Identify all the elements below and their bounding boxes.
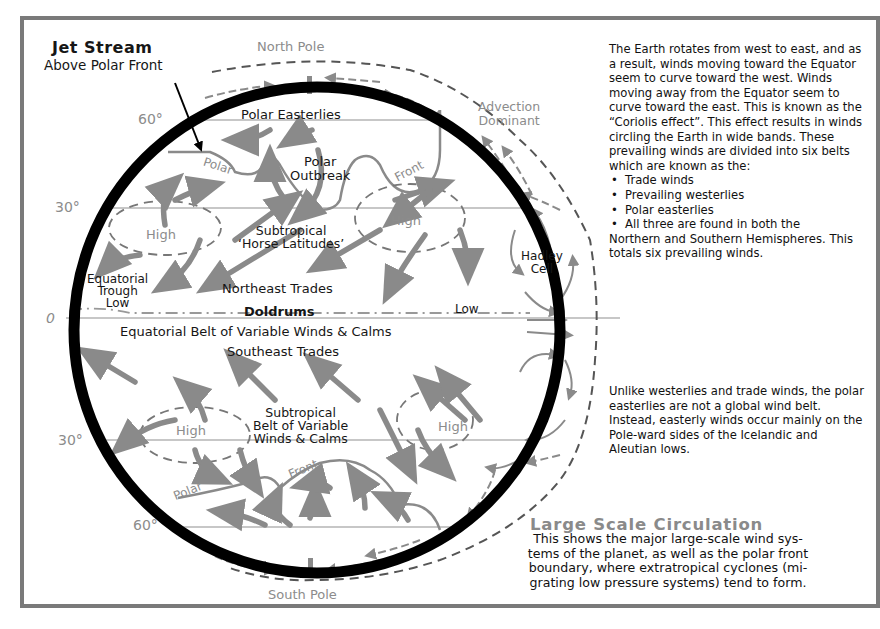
south-pole-label: South Pole — [268, 588, 337, 602]
high-nw-label: High — [146, 228, 176, 242]
equatorial-trough-label: Equatorial Trough Low — [87, 273, 148, 309]
high-ne-label: High — [391, 214, 421, 228]
coriolis-explanation: The Earth rotates from west to east, and… — [609, 42, 867, 261]
hadley-cell-label: Hadley Cell — [521, 250, 563, 275]
advection-dominant-label: Advection Dominant — [478, 100, 540, 128]
polar-outbreak-label: Polar Outbreak — [290, 155, 350, 182]
latitude-label-n30: 30° — [55, 200, 80, 215]
latitude-label-s60: 60° — [133, 518, 158, 533]
latitude-label-n60: 60° — [138, 112, 163, 127]
diagram-caption: This shows the major large-scale wind sy… — [497, 532, 839, 591]
southeast-trades-label: Southeast Trades — [227, 345, 339, 359]
polar-easterlies-note: Unlike westerlies and trade winds, the p… — [609, 384, 867, 457]
list-item: Trade winds — [609, 173, 867, 188]
list-item: Polar easterlies — [609, 203, 867, 218]
subtropical-horse-latitudes-label: Subtropical ‘Horse Latitudes’ — [238, 224, 344, 250]
list-item: All three are found in both the — [609, 217, 867, 232]
high-se-label: High — [438, 420, 468, 434]
jet-stream-title: Jet Stream — [52, 40, 152, 57]
high-sw-label: High — [176, 424, 206, 438]
polar-easterlies-label: Polar Easterlies — [241, 108, 341, 122]
northeast-trades-label: Northeast Trades — [222, 282, 333, 296]
low-east-label: Low — [455, 303, 479, 316]
north-pole-label: North Pole — [257, 40, 324, 54]
latitude-label-equator: 0 — [46, 311, 55, 326]
jet-stream-subtitle: Above Polar Front — [44, 58, 163, 72]
wind-belts-list: Trade winds Prevailing westerlies Polar … — [609, 173, 867, 231]
latitude-label-s30: 30° — [58, 433, 83, 448]
list-item: Prevailing westerlies — [609, 188, 867, 203]
doldrums-label: Doldrums — [244, 305, 314, 319]
equatorial-belt-label: Equatorial Belt of Variable Winds & Calm… — [120, 325, 392, 339]
hemispheres-note: Northern and Southern Hemispheres. This … — [609, 232, 867, 261]
coriolis-paragraph: The Earth rotates from west to east, and… — [609, 42, 867, 173]
subtropical-belt-label: Subtropical Belt of Variable Winds & Cal… — [253, 407, 348, 445]
